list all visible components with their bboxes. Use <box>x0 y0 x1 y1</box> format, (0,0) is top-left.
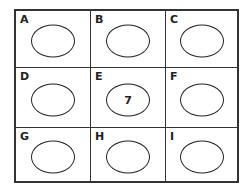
puzzle-grid: A B C D E7 F G H I <box>14 9 239 183</box>
cell-f: F <box>166 68 237 128</box>
cell-a: A <box>16 11 91 68</box>
cell-g: G <box>16 128 91 181</box>
cell-h: H <box>91 128 166 181</box>
cell-label: C <box>170 13 178 26</box>
oval-slot[interactable] <box>31 140 75 173</box>
cell-label: I <box>170 130 174 143</box>
cell-label: E <box>95 70 103 83</box>
oval-slot[interactable] <box>31 83 75 116</box>
cell-e: E7 <box>91 68 166 128</box>
oval-slot[interactable] <box>180 83 224 116</box>
cell-c: C <box>166 11 237 68</box>
cell-label: G <box>20 130 29 143</box>
oval-slot[interactable] <box>180 140 224 173</box>
oval-slot[interactable] <box>180 25 224 58</box>
cell-label: B <box>95 13 103 26</box>
oval-slot[interactable] <box>106 140 150 173</box>
oval-slot[interactable] <box>31 25 75 58</box>
cell-d: D <box>16 68 91 128</box>
cell-label: A <box>20 13 29 26</box>
cell-i: I <box>166 128 237 181</box>
cell-label: D <box>20 70 29 83</box>
oval-slot[interactable]: 7 <box>106 83 150 116</box>
cell-b: B <box>91 11 166 68</box>
cell-label: F <box>170 70 178 83</box>
cell-label: H <box>95 130 104 143</box>
oval-slot[interactable] <box>106 25 150 58</box>
